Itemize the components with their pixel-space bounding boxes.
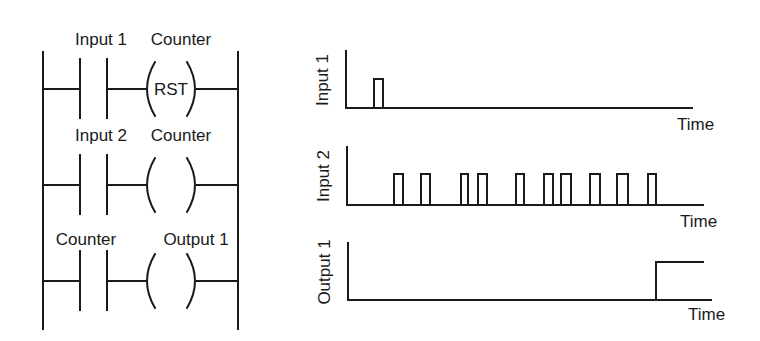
signal-pulse (544, 174, 553, 205)
timing-chart-input-1: Input 1Time (313, 51, 714, 134)
signal-pulse (421, 174, 430, 205)
contact-label: Input 2 (75, 126, 127, 145)
contact-label: Input 1 (75, 30, 127, 49)
coil-label: Counter (151, 30, 212, 49)
timing-chart-input-2: Input 2Time (314, 147, 717, 231)
signal-pulse (561, 174, 571, 205)
signal-pulse (461, 174, 468, 205)
y-axis-label: Output 1 (315, 239, 334, 304)
coil-left-arc (147, 158, 155, 212)
x-axis-label: Time (680, 212, 717, 231)
coil-right-arc (187, 158, 195, 212)
rung-2: Input 2Counter (43, 126, 238, 214)
y-axis-label: Input 2 (314, 150, 333, 202)
signal-pulse (516, 174, 524, 205)
timing-chart-output-1: Output 1Time (315, 239, 725, 324)
signal-pulse (590, 174, 600, 205)
coil-label: Counter (151, 126, 212, 145)
timing-charts: Input 1TimeInput 2TimeOutput 1Time (313, 51, 725, 324)
ladder-diagram: Input 1CounterRSTInput 2CounterCounterOu… (43, 30, 238, 329)
coil-left-arc (147, 254, 155, 308)
contact-label: Counter (56, 230, 117, 249)
ladder-and-timing-diagram: Input 1CounterRSTInput 2CounterCounterOu… (0, 0, 760, 341)
coil-right-arc (187, 254, 195, 308)
x-axis-label: Time (677, 115, 714, 134)
rung-3: CounterOutput 1 (43, 230, 238, 310)
signal-pulse (648, 174, 656, 205)
coil-right-arc (187, 62, 195, 116)
rung-1: Input 1CounterRST (43, 30, 238, 118)
y-axis-label: Input 1 (313, 54, 332, 106)
signal-pulse (478, 174, 487, 205)
coil-instruction-text: RST (154, 80, 188, 99)
signal-pulse (374, 79, 383, 108)
signal-pulse (394, 174, 403, 205)
x-axis-label: Time (688, 305, 725, 324)
coil-label: Output 1 (163, 230, 228, 249)
signal-pulse (617, 174, 628, 205)
